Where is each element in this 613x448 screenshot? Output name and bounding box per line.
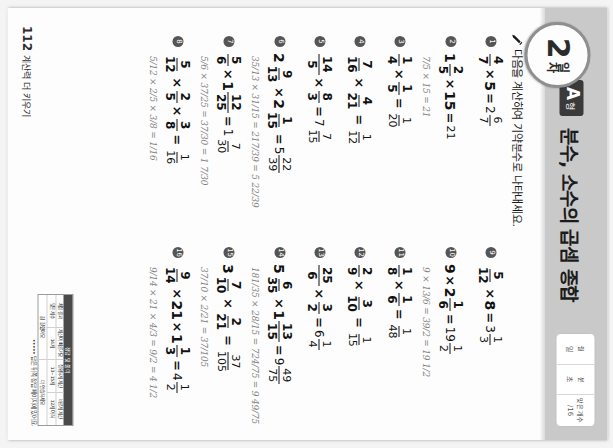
page-number: 112 xyxy=(19,26,33,51)
answer-fraction: 67 xyxy=(477,115,502,126)
answer-fraction: 120 xyxy=(386,112,411,130)
mixed-whole: 1 xyxy=(170,334,184,344)
fraction-denominator: 12 xyxy=(346,128,358,146)
fraction-numerator: 5 xyxy=(489,269,503,281)
answer-fraction: 13 xyxy=(477,334,502,345)
stamp-title: 정답 및 풀이 xyxy=(63,295,72,425)
fraction-numerator: 7 xyxy=(227,141,240,152)
fraction: 18 xyxy=(385,265,412,277)
integer-operand: 8 xyxy=(483,301,497,311)
fraction-denominator: 16 xyxy=(345,54,358,75)
fraction-denominator: 2 xyxy=(305,302,318,314)
stamp-grid: 채점 결과계산이 빠른가요정확하게 계산바르게 계산맞은 개수16개13~15개… xyxy=(46,295,63,425)
equals-sign: = xyxy=(392,98,405,109)
equals-sign: = xyxy=(272,345,285,356)
fraction: 38 xyxy=(163,119,190,131)
answer-fraction: 12 xyxy=(437,343,462,354)
fraction: 16 xyxy=(385,293,412,305)
mixed-whole: 5 xyxy=(272,264,286,274)
fraction-denominator: 25 xyxy=(214,92,227,113)
answer-whole: 4 xyxy=(171,373,183,381)
screenshot-root: 2 일차 A 형 분수, 소수의 곱셈 종합 월 일 분 초 맞은 xyxy=(0,0,613,448)
rotated-page-wrapper: 2 일차 A 형 분수, 소수의 곱셈 종합 월 일 분 초 맞은 xyxy=(0,0,613,448)
fraction-numerator: 1 xyxy=(358,132,371,143)
operator: × xyxy=(392,69,405,80)
handwritten-work: 7/5 × 15 = 21 xyxy=(420,56,430,229)
fraction-numerator: 3 xyxy=(318,302,332,314)
pencil-icon xyxy=(512,34,523,45)
type-suffix: 형 xyxy=(564,102,573,110)
problem-expression: 512×25×38=116 xyxy=(163,53,190,167)
fraction: 32 xyxy=(305,302,332,314)
fraction-numerator: 1 xyxy=(398,54,412,66)
problem-expression: 512×8=313 xyxy=(476,264,503,346)
fraction-denominator: 5 xyxy=(163,91,176,103)
problem-expression: 3710×221=37105 xyxy=(214,264,241,375)
fraction: 221 xyxy=(214,311,241,332)
fraction-numerator: 1 xyxy=(489,334,502,345)
operator: × xyxy=(170,77,183,88)
problem-expression: 125×15=21 xyxy=(436,53,463,139)
fraction-numerator: 2 xyxy=(227,316,241,328)
problem-number: 10 xyxy=(445,247,456,258)
score-cell-date: 월 일 xyxy=(556,334,594,365)
fraction: 256 xyxy=(305,265,332,286)
fraction-numerator: 1 xyxy=(398,82,412,94)
operator: × xyxy=(483,288,496,299)
fraction: 913 xyxy=(265,64,292,85)
fraction-denominator: 14 xyxy=(163,265,176,286)
instruction-text: 다음을 계산하여 기약분수로 나타내세요. xyxy=(509,49,525,227)
score-value-day: 일 xyxy=(565,346,575,352)
answer-whole: 5 xyxy=(273,147,285,155)
problem-item: 1229×310=115 xyxy=(345,247,372,440)
problem-item: 8512×25×38=116 xyxy=(163,36,190,229)
fraction-numerator: 37 xyxy=(227,352,240,370)
integer-operand: 15 xyxy=(443,91,457,110)
answer-fraction: 148 xyxy=(386,323,411,341)
fraction-numerator: 1 xyxy=(398,265,412,277)
score-value-second: 초 xyxy=(565,376,575,382)
answer-fraction: 14 xyxy=(306,339,331,350)
type-letter: A xyxy=(563,87,580,100)
fraction-denominator: 20 xyxy=(386,112,398,130)
problem-number: 13 xyxy=(314,247,325,258)
fraction-denominator: 6 xyxy=(385,293,398,305)
fraction-denominator: 3 xyxy=(163,345,176,357)
problem-item: 2125×15=21 xyxy=(436,36,463,229)
equals-sign: = xyxy=(312,317,325,328)
equals-sign: = xyxy=(483,312,496,323)
fraction-denominator: 30 xyxy=(215,137,227,155)
handwritten-work: 9/14 × 21 × 4/3 = 9/2 = 4 1/2 xyxy=(147,267,157,440)
fraction-denominator: 10 xyxy=(214,275,227,296)
fraction-numerator: 1 xyxy=(398,326,411,337)
day-badge-inner: 2 일차 xyxy=(542,38,572,72)
stamp-foot: 참 잘했어요 더 연습하세요 xyxy=(38,295,46,425)
mixed-whole: 3 xyxy=(221,264,235,274)
fraction-numerator: 5 xyxy=(227,54,241,66)
fraction-denominator: 4 xyxy=(306,339,318,350)
fraction-denominator: 9 xyxy=(345,265,358,277)
problem-number: 16 xyxy=(172,247,183,258)
fraction-numerator: 9 xyxy=(176,269,190,281)
operator: × xyxy=(170,288,183,299)
problem-expression: 2913×2115=52239 xyxy=(265,53,292,174)
mixed-whole: 1 xyxy=(221,81,235,91)
fraction-denominator: 5 xyxy=(436,64,449,76)
handwritten-work: 37/10 × 2/21 = 37/105 xyxy=(198,267,208,440)
problem-number: 5 xyxy=(314,36,325,47)
stamp-cell: 12개 이하 xyxy=(46,393,55,426)
fraction: 512 xyxy=(476,265,503,286)
fraction-denominator: 39 xyxy=(266,155,278,173)
fraction: 115 xyxy=(265,110,292,131)
fraction-denominator: 6 xyxy=(436,298,449,310)
fraction: 13 xyxy=(163,345,190,357)
fraction: 710 xyxy=(214,275,241,296)
fraction-numerator: 1 xyxy=(449,343,462,354)
operator: × xyxy=(272,87,285,98)
fraction-denominator: 12 xyxy=(163,54,176,75)
answer-fraction: 12 xyxy=(164,382,189,393)
fraction-denominator: 5 xyxy=(305,58,318,70)
problem-item: 147×5=267 xyxy=(476,36,503,229)
answer-fraction: 116 xyxy=(164,148,189,166)
problem-item: 16914×21×113=412 xyxy=(163,247,190,440)
